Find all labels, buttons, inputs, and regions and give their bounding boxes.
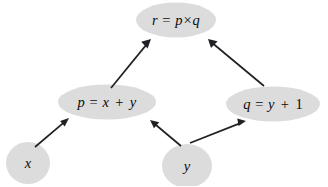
- edge-p-to-r-arrowhead: [141, 39, 151, 49]
- edge-y-to-p-line: [154, 124, 181, 147]
- edge-q-to-r: [208, 39, 264, 86]
- edge-y-to-q-line: [190, 123, 241, 143]
- node-y-shape[interactable]: [162, 144, 212, 186]
- edge-p-to-r: [111, 39, 151, 88]
- edge-p-to-r-line: [111, 44, 147, 88]
- node-q-shape[interactable]: [226, 87, 320, 122]
- edge-y-to-q: [190, 118, 246, 143]
- node-p-shape[interactable]: [58, 85, 156, 120]
- dependency-graph: [0, 0, 328, 186]
- edge-y-to-p: [150, 120, 181, 146]
- edge-x-to-p: [35, 118, 69, 147]
- node-shapes: [6, 3, 320, 187]
- node-r-shape[interactable]: [136, 3, 216, 38]
- edge-x-to-p-line: [35, 121, 65, 147]
- node-x-shape[interactable]: [6, 142, 50, 184]
- edge-q-to-r-line: [213, 44, 264, 87]
- edge-y-to-q-arrowhead: [237, 118, 246, 126]
- diagram-canvas: r = p×q p = x + y q = y + 1 x y: [0, 0, 328, 186]
